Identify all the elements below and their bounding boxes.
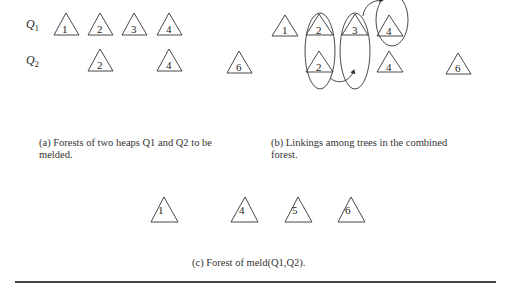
svg-text:5: 5 <box>292 204 298 216</box>
svg-text:2: 2 <box>316 61 322 73</box>
caption-c: (c) Forest of meld(Q1,Q2). <box>192 257 305 269</box>
svg-text:6: 6 <box>455 62 461 74</box>
tree-b-3: 3 <box>342 14 368 36</box>
caption-b-line1: (b) Linkings among trees in the combined <box>271 137 447 149</box>
svg-text:6: 6 <box>345 204 351 216</box>
svg-text:2: 2 <box>97 23 103 35</box>
panel-a: Q1 Q2 1 2 3 4 2 4 6 <box>26 13 252 73</box>
svg-text:4: 4 <box>386 25 392 37</box>
caption-a: (a) Forests of two heaps Q1 and Q2 to be… <box>39 137 212 161</box>
q1-label: Q1 <box>26 17 39 33</box>
svg-text:4: 4 <box>166 23 172 35</box>
tree-q2-2: 2 <box>88 49 113 71</box>
tree-q1-1: 1 <box>54 13 79 35</box>
tree-b-4-bottom: 4 <box>377 51 403 73</box>
caption-b: (b) Linkings among trees in the combined… <box>271 137 447 161</box>
svg-text:3: 3 <box>352 24 358 36</box>
tree-b-2-top: 2 <box>306 14 333 36</box>
q2-label: Q2 <box>26 53 39 69</box>
svg-text:4: 4 <box>166 59 172 71</box>
horizontal-rule <box>15 281 496 283</box>
tree-c-4: 4 <box>231 197 258 222</box>
svg-text:4: 4 <box>239 204 245 216</box>
svg-text:6: 6 <box>236 61 242 73</box>
tree-b-1: 1 <box>272 15 298 36</box>
tree-b-6: 6 <box>446 53 471 74</box>
tree-q2-6: 6 <box>227 51 252 73</box>
panel-c: 1 4 5 6 <box>151 197 365 222</box>
tree-q1-3: 3 <box>122 13 147 35</box>
tree-c-6: 6 <box>338 197 365 222</box>
tree-b-2-bottom: 2 <box>306 51 333 73</box>
caption-a-line1: (a) Forests of two heaps Q1 and Q2 to be <box>39 137 212 149</box>
caption-b-line2: forest. <box>271 149 447 161</box>
svg-text:1: 1 <box>158 204 164 216</box>
panel-b: 1 2 3 4 2 4 6 <box>272 0 471 89</box>
tree-q1-4: 4 <box>157 13 182 35</box>
tree-q2-4: 4 <box>157 49 182 71</box>
tree-c-1: 1 <box>151 197 178 222</box>
tree-b-4-top: 4 <box>377 15 403 37</box>
svg-text:2: 2 <box>97 59 103 71</box>
svg-text:3: 3 <box>131 23 137 35</box>
svg-text:4: 4 <box>386 61 392 73</box>
caption-a-line2: melded. <box>39 149 212 161</box>
tree-q1-2: 2 <box>88 13 113 35</box>
svg-text:2: 2 <box>316 24 322 36</box>
tree-c-5: 5 <box>285 197 312 222</box>
link-ellipse-4 <box>376 0 408 46</box>
svg-text:1: 1 <box>62 23 68 35</box>
svg-text:1: 1 <box>282 24 288 36</box>
